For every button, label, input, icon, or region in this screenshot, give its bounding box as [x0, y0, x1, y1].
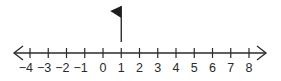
tick-label: 8: [246, 61, 253, 75]
tick-label: 3: [154, 61, 161, 75]
tick-label: −1: [73, 61, 87, 75]
tick-labels: −4−3−2−1012345678: [19, 61, 253, 75]
tick-label: −3: [37, 61, 51, 75]
number-line-svg: −4−3−2−1012345678: [0, 0, 281, 81]
flag-marker: [110, 6, 121, 42]
number-line-diagram: −4−3−2−1012345678: [0, 0, 281, 81]
tick-label: 7: [227, 61, 234, 75]
tick-label: 4: [173, 61, 180, 75]
tick-label: 6: [209, 61, 216, 75]
tick-label: −2: [55, 61, 69, 75]
tick-label: 5: [191, 61, 198, 75]
tick-label: 1: [118, 61, 125, 75]
tick-label: 0: [100, 61, 107, 75]
flag-icon: [110, 6, 121, 18]
tick-label: −4: [19, 61, 33, 75]
tick-label: 2: [136, 61, 143, 75]
